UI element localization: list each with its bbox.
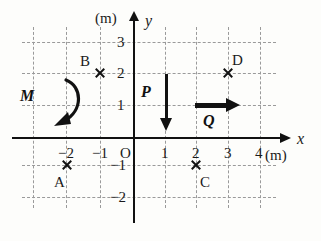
gridline-vertical-x-4 bbox=[260, 27, 261, 208]
y-tick-label-minus2: −2 bbox=[110, 190, 126, 205]
x-axis-arrowhead bbox=[280, 133, 291, 143]
vector-p-label: P bbox=[141, 84, 151, 100]
point-marker-b bbox=[94, 67, 106, 79]
gridline-horizontal-y-minus2 bbox=[22, 197, 276, 198]
point-marker-d bbox=[222, 67, 234, 79]
y-axis-name-label: y bbox=[145, 13, 152, 29]
coordinate-diagram: (m) y x (m) 3 2 1 −1 −2 −2 −1 O 1 2 3 4 … bbox=[0, 0, 321, 241]
y-axis-line bbox=[133, 20, 135, 223]
vector-q-arrowhead bbox=[226, 98, 240, 112]
x-tick-label-4: 4 bbox=[255, 146, 263, 161]
y-axis-unit-label: (m) bbox=[95, 11, 117, 26]
y-axis-arrowhead bbox=[129, 11, 139, 21]
origin-label: O bbox=[120, 146, 131, 161]
y-tick-label-1: 1 bbox=[117, 98, 125, 113]
x-tick-label-minus1: −1 bbox=[92, 146, 108, 161]
x-tick-label-1: 1 bbox=[161, 146, 169, 161]
x-axis-line bbox=[12, 137, 282, 139]
x-axis-unit-label: (m) bbox=[265, 148, 287, 163]
vector-m-curved-arrow bbox=[44, 76, 88, 132]
x-tick-label-3: 3 bbox=[224, 146, 232, 161]
point-marker-c bbox=[190, 159, 202, 171]
point-marker-a bbox=[61, 159, 73, 171]
gridline-horizontal-y-2 bbox=[22, 73, 276, 74]
point-label-c: C bbox=[200, 175, 210, 190]
gridline-horizontal-y-3 bbox=[22, 42, 276, 43]
gridline-vertical-x-minus1 bbox=[100, 27, 101, 208]
gridline-vertical-x-minus3 bbox=[33, 27, 34, 208]
vector-p-arrowhead bbox=[160, 118, 172, 131]
point-label-b: B bbox=[80, 54, 90, 69]
point-label-a: A bbox=[54, 175, 65, 190]
gridline-vertical-x-3 bbox=[228, 27, 229, 208]
vector-p-shaft bbox=[165, 74, 168, 120]
gridline-vertical-x-2 bbox=[196, 27, 197, 208]
y-tick-label-2: 2 bbox=[117, 66, 125, 81]
x-axis-name-label: x bbox=[297, 131, 304, 147]
vector-q-label: Q bbox=[203, 113, 215, 129]
y-tick-label-3: 3 bbox=[117, 35, 125, 50]
vector-m-label: M bbox=[20, 88, 34, 104]
vector-q-shaft bbox=[195, 103, 226, 108]
point-label-d: D bbox=[232, 53, 243, 68]
